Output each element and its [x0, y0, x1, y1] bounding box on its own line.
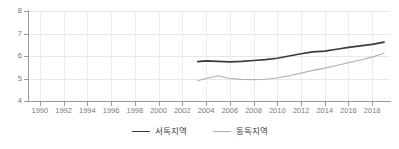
x-tick-mark	[277, 102, 278, 106]
x-tick-mark	[135, 102, 136, 106]
legend-entry-dongdok[interactable]: 동독지역	[213, 126, 268, 136]
legend-entry-seodok[interactable]: 서독지역	[132, 126, 187, 136]
x-tick-mark	[325, 102, 326, 106]
y-tick-label: 5	[2, 75, 22, 83]
gridline-vertical	[159, 11, 160, 101]
y-tick-label: 8	[2, 7, 22, 15]
y-tick-label: 7	[2, 30, 22, 38]
legend-label-seodok: 서독지역	[155, 126, 187, 136]
x-tick-mark	[348, 102, 349, 106]
y-tick-mark	[24, 11, 28, 12]
gridline-horizontal	[28, 56, 390, 57]
x-tick-mark	[182, 102, 183, 106]
legend-swatch-dongdok	[213, 131, 231, 132]
x-tick-mark	[87, 102, 88, 106]
legend-label-dongdok: 동독지역	[236, 126, 268, 136]
gridline-vertical	[348, 11, 349, 101]
x-tick-label: 2018	[358, 107, 386, 115]
gridline-vertical	[135, 11, 136, 101]
y-tick-mark	[24, 79, 28, 80]
x-axis-line	[28, 101, 391, 102]
x-tick-mark	[301, 102, 302, 106]
y-tick-label: 6	[2, 52, 22, 60]
gridline-horizontal	[28, 34, 390, 35]
gridline-vertical	[64, 11, 65, 101]
gridline-vertical	[325, 11, 326, 101]
x-tick-mark	[254, 102, 255, 106]
x-tick-mark	[111, 102, 112, 106]
y-tick-mark	[24, 56, 28, 57]
chart-legend: 서독지역 동독지역	[0, 126, 399, 136]
x-tick-mark	[230, 102, 231, 106]
y-tick-mark	[24, 101, 28, 102]
gridline-vertical	[230, 11, 231, 101]
x-tick-mark	[64, 102, 65, 106]
plot-area	[28, 11, 390, 101]
gridline-horizontal	[28, 11, 390, 12]
gridline-vertical	[87, 11, 88, 101]
gridline-horizontal	[28, 79, 390, 80]
gridline-vertical	[111, 11, 112, 101]
gridline-vertical	[182, 11, 183, 101]
x-tick-mark	[159, 102, 160, 106]
gridline-vertical	[277, 11, 278, 101]
y-tick-mark	[24, 34, 28, 35]
line-chart: 45678 1990199219941996199820002002200420…	[0, 0, 399, 149]
gridline-vertical	[254, 11, 255, 101]
gridline-vertical	[40, 11, 41, 101]
x-tick-mark	[372, 102, 373, 106]
y-axis-line	[28, 10, 29, 102]
gridline-vertical	[206, 11, 207, 101]
y-tick-label: 4	[2, 97, 22, 105]
legend-swatch-seodok	[132, 131, 150, 132]
x-tick-mark	[206, 102, 207, 106]
x-tick-mark	[40, 102, 41, 106]
gridline-vertical	[301, 11, 302, 101]
gridline-vertical	[372, 11, 373, 101]
